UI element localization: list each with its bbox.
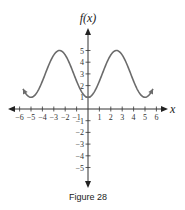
x-tick-label: 4: [132, 113, 136, 122]
x-tick-label: 2: [109, 113, 113, 122]
x-axis-label: x: [169, 102, 176, 116]
x-axis-right-arrow: [161, 106, 168, 112]
x-tick-label: −4: [38, 113, 47, 122]
y-tick-label: 4: [80, 58, 84, 67]
y-tick-label: −3: [75, 140, 84, 149]
axes: [8, 28, 168, 188]
y-axis-bottom-arrow: [85, 181, 91, 188]
x-tick-label: −2: [61, 113, 70, 122]
y-tick-label: −4: [75, 152, 84, 161]
x-tick-label: 3: [120, 113, 124, 122]
x-axis-left-arrow: [8, 106, 15, 112]
x-tick-label: −3: [50, 113, 59, 122]
figure-caption: Figure 28: [69, 192, 107, 202]
y-tick-label: 5: [80, 47, 84, 56]
y-tick-label: −1: [75, 117, 84, 126]
x-tick-label: −6: [15, 113, 24, 122]
y-axis-top-arrow: [85, 28, 91, 35]
y-tick-label: −2: [75, 128, 84, 137]
x-tick-label: 1: [97, 113, 101, 122]
x-tick-label: −5: [27, 113, 36, 122]
y-tick-label: −5: [75, 164, 84, 173]
y-tick-label: 3: [80, 70, 84, 79]
y-axis-label: f(x): [80, 11, 97, 25]
chart: −6−5−4−3−2−1123456−5−4−3−2−112345 f(x) x…: [0, 0, 185, 210]
x-tick-label: 6: [154, 113, 158, 122]
x-tick-label: 5: [143, 113, 147, 122]
